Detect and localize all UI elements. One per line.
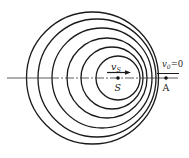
source-label: S [115,82,122,93]
observer-point [164,76,168,80]
doppler-diagram: vS S v0=0 A [0,0,189,158]
source-point [116,76,120,80]
observer-label: A [162,82,170,93]
observer-velocity-label: v0=0 [162,59,183,70]
diagram-canvas: vS S v0=0 A [0,0,189,158]
